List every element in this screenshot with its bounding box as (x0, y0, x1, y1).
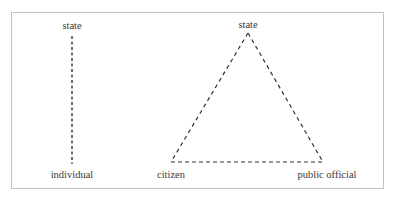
triad-edge-state-citizen (171, 33, 248, 162)
triad-bottom-left-label: citizen (157, 169, 185, 181)
dyad-bottom-label: individual (51, 169, 94, 181)
triad-edge-state-public-official (248, 33, 323, 162)
triad-top-label: state (238, 19, 257, 31)
dyad-top-label: state (62, 20, 81, 32)
triad-bottom-right-label: public official (298, 169, 357, 181)
